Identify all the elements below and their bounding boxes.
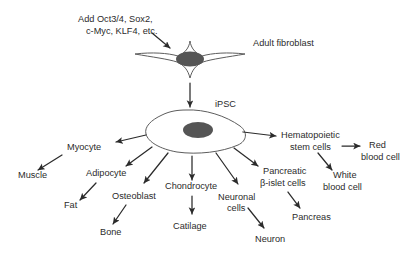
ipsc-differentiation-diagram: Add Oct3/4, Sox2, c-Myc, KLF4, etc. Adul… [0, 0, 415, 253]
arrow-neuronal-cells-to-neuron [248, 208, 264, 228]
ipsc-label: iPSC [215, 99, 236, 109]
reprogramming-factors-line1: Add Oct3/4, Sox2, [78, 14, 153, 24]
diagram-canvas: Add Oct3/4, Sox2, c-Myc, KLF4, etc. Adul… [0, 0, 415, 253]
hematopoietic-label-line2: stem cells [290, 142, 331, 152]
arrow-factors-to-fibroblast [152, 33, 170, 48]
arrow-adipocyte-to-fat [80, 183, 96, 200]
pancreatic-islet-label-line2: β-islet cells [260, 178, 306, 188]
arrow-ipsc-to-neuronal-cells [216, 153, 238, 184]
arrow-ipsc-to-myocyte [116, 135, 146, 142]
neuronal-cells-label-line2: cells [227, 203, 246, 213]
arrow-ipsc-to-pancreatic-islet [234, 148, 258, 166]
arrow-osteoblast-to-bone [113, 205, 126, 224]
adult-fibroblast-label: Adult fibroblast [253, 38, 314, 48]
arrow-ipsc-to-adipocyte [126, 147, 152, 166]
muscle-label: Muscle [18, 170, 47, 180]
adipocyte-label: Adipocyte [86, 168, 126, 178]
white-blood-cell-label-line2: blood cell [323, 182, 362, 192]
ipsc-nucleus [183, 122, 213, 138]
red-blood-cell-label-line2: blood cell [361, 152, 400, 162]
ipsc-cell [146, 110, 246, 153]
hematopoietic-label-line1: Hematopoietic [281, 130, 340, 140]
arrow-ipsc-to-osteoblast [144, 153, 168, 183]
myocyte-label: Myocyte [67, 142, 101, 152]
pancreas-label: Pancreas [292, 212, 331, 222]
arrow-hematopoietic-to-white-blood-cell [318, 153, 332, 170]
pancreatic-islet-label-line1: Pancreatic [263, 166, 307, 176]
neuron-label: Neuron [255, 234, 285, 244]
arrow-pancreatic-islet-to-pancreas [288, 192, 300, 208]
red-blood-cell-label-line1: Red [369, 140, 386, 150]
chondrocyte-label: Chondrocyte [165, 181, 217, 191]
catilage-label: Catilage [173, 221, 207, 231]
neuronal-cells-label-line1: Neuronal [218, 192, 255, 202]
adult-fibroblast-cell [135, 41, 245, 78]
white-blood-cell-label-line1: White [333, 170, 357, 180]
fat-label: Fat [64, 200, 78, 210]
arrow-myocyte-to-muscle [38, 155, 62, 170]
bone-label: Bone [100, 227, 121, 237]
arrow-ipsc-to-hematopoietic [243, 132, 276, 136]
fibroblast-nucleus [176, 52, 204, 67]
reprogramming-factors-line2: c-Myc, KLF4, etc. [86, 26, 157, 36]
osteoblast-label: Osteoblast [112, 191, 156, 201]
